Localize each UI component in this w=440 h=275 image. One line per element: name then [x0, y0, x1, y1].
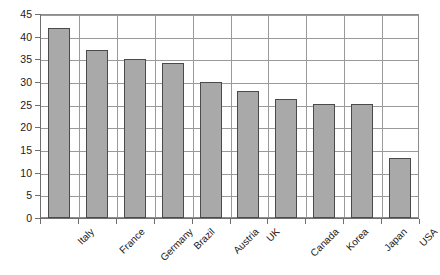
- x-axis-tick: [154, 219, 155, 224]
- y-axis-tick: [35, 37, 40, 38]
- x-axis-tick: [343, 219, 344, 224]
- category-label-text: France: [117, 226, 147, 256]
- y-axis: [40, 14, 41, 219]
- x-axis-tick: [267, 219, 268, 224]
- bar: [389, 158, 411, 218]
- y-axis-tick-label: 25: [4, 100, 32, 111]
- x-axis-category-label: Brazil: [191, 226, 216, 251]
- y-axis-tick: [35, 14, 40, 15]
- category-label-text: USA: [417, 226, 439, 248]
- y-axis-tick: [35, 59, 40, 60]
- bar: [200, 82, 222, 218]
- x-axis-category-label: Italy: [76, 226, 97, 247]
- bar: [124, 59, 146, 218]
- x-axis-tick: [230, 219, 231, 224]
- y-axis-tick-label: 35: [4, 54, 32, 65]
- bar: [351, 104, 373, 218]
- x-axis-category-label: Korea: [343, 226, 370, 253]
- x-axis-category-label: UK: [264, 226, 282, 244]
- y-axis-tick-label: 45: [4, 9, 32, 20]
- x-axis-tick: [305, 219, 306, 224]
- category-label-text: Canada: [308, 226, 341, 259]
- x-axis-tick: [40, 219, 41, 224]
- y-axis-tick-label: 10: [4, 168, 32, 179]
- category-label-text: Brazil: [191, 226, 216, 251]
- y-axis-tick: [35, 127, 40, 128]
- bar: [86, 50, 108, 218]
- bar: [48, 28, 70, 218]
- bar: [237, 91, 259, 218]
- y-axis-tick: [35, 105, 40, 106]
- y-axis-tick-label: 15: [4, 145, 32, 156]
- y-axis-tick-label: 0: [4, 213, 32, 224]
- bar: [275, 99, 297, 218]
- bar: [162, 63, 184, 218]
- y-axis-tick: [35, 82, 40, 83]
- y-axis-tick-label: 40: [4, 32, 32, 43]
- x-axis-category-label: Japan: [381, 226, 408, 253]
- category-label-text: Korea: [343, 226, 370, 253]
- y-axis-tick-label: 20: [4, 122, 32, 133]
- x-axis-category-label: France: [117, 226, 147, 256]
- x-axis-category-label: Canada: [308, 226, 341, 259]
- x-axis-category-label: USA: [417, 226, 439, 248]
- x-axis-tick: [78, 219, 79, 224]
- x-axis-tick: [381, 219, 382, 224]
- category-label-text: Italy: [76, 226, 97, 247]
- bar: [313, 104, 335, 218]
- x-axis-category-label: Austria: [231, 226, 261, 256]
- y-axis-tick-label: 30: [4, 77, 32, 88]
- category-label-text: Austria: [231, 226, 261, 256]
- x-axis-tick: [192, 219, 193, 224]
- x-axis-tick: [419, 219, 420, 224]
- x-axis-category-label: Germany: [158, 226, 195, 263]
- y-axis-tick: [35, 195, 40, 196]
- y-axis-tick: [35, 173, 40, 174]
- y-axis-tick-label: 5: [4, 190, 32, 201]
- category-label-text: UK: [264, 226, 282, 244]
- category-label-text: Germany: [158, 226, 195, 263]
- category-label-text: Japan: [381, 226, 408, 253]
- bars-layer: [40, 14, 419, 218]
- x-axis-tick: [116, 219, 117, 224]
- y-axis-tick: [35, 150, 40, 151]
